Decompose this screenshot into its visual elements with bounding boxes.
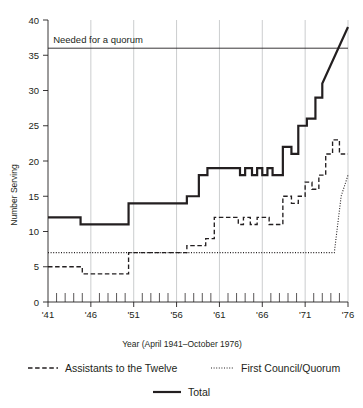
legend-label-total: Total	[188, 386, 210, 398]
y-tick-label: 10	[28, 226, 39, 237]
y-tick-label: 40	[28, 15, 39, 26]
y-tick-label: 0	[34, 297, 39, 308]
y-tick-label: 30	[28, 85, 39, 96]
y-axis-title: Number Serving	[9, 164, 19, 226]
x-tick-label: '51	[128, 309, 140, 320]
y-tick-label: 15	[28, 191, 39, 202]
chart-figure: 0510152025303540 '41'46'51'56'61'66'71'7…	[0, 0, 363, 408]
x-tick-label: '41	[42, 309, 54, 320]
x-tick-label: '46	[85, 309, 97, 320]
y-tick-label: 25	[28, 120, 39, 131]
quorum-annotation-label: Needed for a quorum	[53, 34, 143, 45]
y-tick-label: 5	[34, 261, 39, 272]
x-tick-label: '61	[213, 309, 225, 320]
line-chart: 0510152025303540 '41'46'51'56'61'66'71'7…	[0, 0, 363, 408]
x-tick-label: '71	[299, 309, 311, 320]
x-tick-label: '56	[170, 309, 182, 320]
x-axis-title: Year (April 1941–October 1976)	[122, 339, 242, 349]
y-tick-label: 20	[28, 156, 39, 167]
x-tick-label: '66	[256, 309, 268, 320]
legend-label-first-council: First Council/Quorum	[241, 362, 340, 374]
y-tick-label: 35	[28, 50, 39, 61]
x-tick-label: '76	[342, 309, 354, 320]
legend-label-assistants: Assistants to the Twelve	[65, 362, 178, 374]
